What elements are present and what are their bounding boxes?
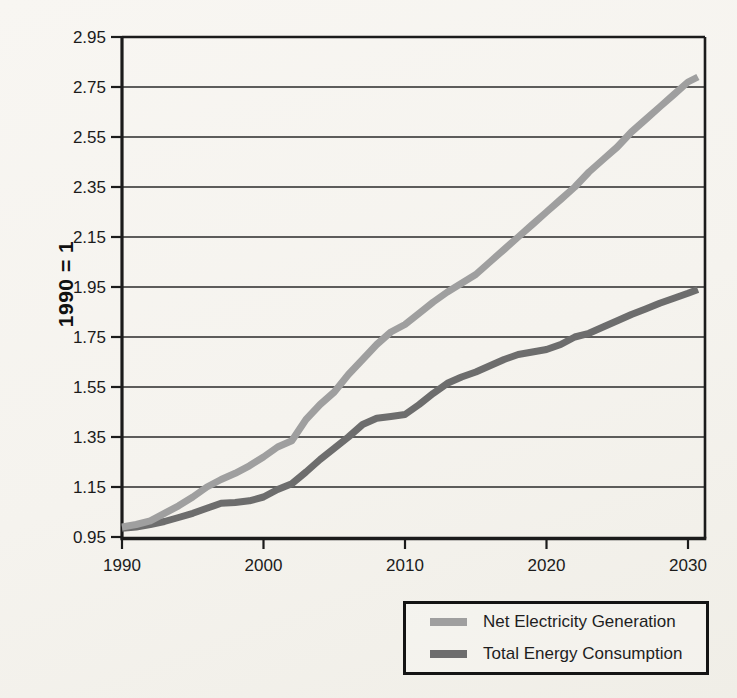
x-tick-label: 2020	[528, 556, 566, 575]
y-axis-title: 1990 = 1	[54, 241, 78, 327]
x-tick-label: 2010	[386, 556, 424, 575]
y-tick-label: 0.95	[73, 528, 106, 547]
legend-item-net-electricity-generation: Net Electricity Generation	[430, 606, 706, 638]
net-electricity-line-swatch-icon	[430, 618, 467, 626]
legend-item-total-energy-consumption: Total Energy Consumption	[430, 638, 706, 670]
legend-label-net-electricity-generation: Net Electricity Generation	[483, 612, 676, 632]
y-tick-label: 2.75	[73, 78, 106, 97]
series-line-total-energy-consumption	[122, 290, 698, 529]
series-line-net-electricity-generation	[122, 77, 698, 527]
legend-label-total-energy-consumption: Total Energy Consumption	[483, 644, 682, 664]
y-tick-label: 2.95	[73, 28, 106, 47]
y-tick-label: 1.15	[73, 478, 106, 497]
x-tick-label: 1990	[103, 556, 141, 575]
x-tick-label: 2000	[245, 556, 283, 575]
y-tick-label: 2.55	[73, 128, 106, 147]
y-tick-label: 1.75	[73, 328, 106, 347]
scanned-chart-page: 2.952.752.552.352.151.951.751.551.351.15…	[0, 0, 737, 698]
y-tick-label: 2.35	[73, 178, 106, 197]
y-tick-label: 1.55	[73, 378, 106, 397]
legend-box: Net Electricity Generation Total Energy …	[403, 601, 709, 675]
total-energy-line-swatch-icon	[430, 650, 467, 658]
x-tick-label: 2030	[669, 556, 707, 575]
line-chart-canvas: 2.952.752.552.352.151.951.751.551.351.15…	[0, 0, 737, 698]
y-tick-label: 1.35	[73, 428, 106, 447]
